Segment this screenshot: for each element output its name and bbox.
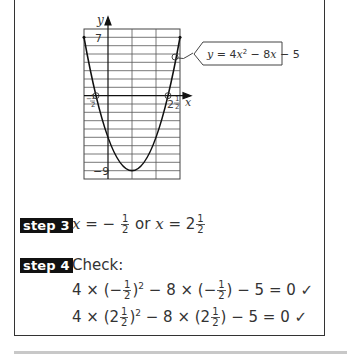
equation-label: y = 4x2 − 8x − 5	[206, 48, 300, 61]
y-axis-arrow-icon	[105, 17, 111, 25]
root-label-left: − 1 2	[86, 93, 95, 109]
x-axis-label: x	[185, 96, 192, 109]
parabola-graph: y x 7 −9 − 1 2 2 1 2 y = 4x2 − 8x − 5	[0, 0, 347, 200]
svg-text:2: 2	[167, 98, 174, 111]
tick-label-7: 7	[95, 32, 102, 45]
check-line-2: 4 × (212)2 − 8 × (212) − 5 = 0 ✓	[72, 307, 307, 328]
step-4-badge: step 4	[20, 258, 73, 273]
svg-text:2: 2	[91, 101, 95, 109]
step-4-title: Check:	[72, 256, 123, 274]
svg-text:1: 1	[175, 95, 179, 103]
svg-text:1: 1	[91, 93, 95, 101]
step-3-solution: x = − 12 or x = 212	[72, 214, 206, 235]
root-label-right: 2 1 2	[167, 95, 179, 111]
svg-text:2: 2	[175, 103, 179, 111]
tick-label-minus-9: −9	[93, 165, 109, 178]
y-axis-label: y	[96, 13, 104, 27]
fraction: 12	[121, 214, 129, 235]
step-3-badge: step 3	[20, 218, 73, 233]
fraction: 12	[196, 214, 204, 235]
check-line-1: 4 × (−12)2 − 8 × (−12) − 5 = 0 ✓	[72, 280, 313, 301]
